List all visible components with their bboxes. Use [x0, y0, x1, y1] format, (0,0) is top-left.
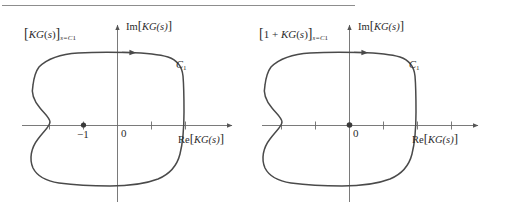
left-contour-name-label: C1 [176, 60, 187, 72]
left-critical-point-marker [81, 122, 86, 127]
right-contour-name-label: C1 [409, 60, 420, 72]
left-imag-axis-label: Im[KG(s)] [126, 19, 172, 33]
left-contour-curve [31, 52, 184, 186]
right-origin-label: 0 [353, 128, 359, 139]
right-contour-label: [1 + KG(s)]s=C1 [259, 27, 328, 42]
left-panel [22, 25, 232, 202]
figure-canvas [0, 0, 512, 218]
left-contour-label: [KG(s)]s=C1 [24, 27, 76, 42]
left-critical-point-label: −1 [77, 129, 89, 140]
right-contour-curve [263, 52, 416, 186]
right-critical-point-marker [347, 122, 353, 128]
right-imag-axis-label: Im[KG(s)] [358, 19, 404, 33]
left-real-axis-label: Re[KG(s)] [178, 132, 224, 146]
nyquist-figure: [KG(s)]s=C1 Im[KG(s)] Re[KG(s)] −1 0 C1 … [0, 0, 512, 218]
left-origin-label: 0 [121, 128, 127, 139]
right-panel [262, 25, 478, 202]
right-real-axis-label: Re[KG(s)] [412, 132, 458, 146]
